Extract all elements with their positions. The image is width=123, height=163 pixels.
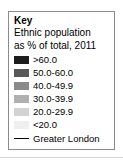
legend-class-row: 40.0-49.9 [14,79,114,92]
legend-class-label: <20.0 [33,120,57,130]
page-divider-rule [0,157,123,158]
legend-class-label: 30.0-39.9 [33,94,73,104]
legend-color-swatch [14,95,29,103]
legend-color-swatch [14,69,29,77]
boundary-line-icon [14,138,29,139]
legend-color-swatch [14,82,29,90]
legend-class-list: >60.0 50.0-60.0 40.0-49.9 30.0-39.9 20.0… [14,53,114,131]
legend-class-row: >60.0 [14,53,114,66]
legend-class-label: >60.0 [33,55,57,65]
legend-color-swatch [14,121,29,129]
legend-class-row: 50.0-60.0 [14,66,114,79]
legend-boundary-label: Greater London [33,134,100,144]
legend-color-swatch [14,56,29,64]
legend-boundary-row: Greater London [14,132,114,145]
legend-class-label: 20.0-29.9 [33,107,73,117]
legend-class-label: 50.0-60.0 [33,68,73,78]
legend-subtitle-line-1: Ethnic population [14,27,114,40]
map-legend-box: Key Ethnic population as % of total, 201… [8,11,115,150]
legend-subtitle-line-2: as % of total, 2011 [14,40,114,53]
legend-content: Key Ethnic population as % of total, 201… [9,12,114,145]
legend-class-label: 40.0-49.9 [33,81,73,91]
legend-color-swatch [14,108,29,116]
legend-class-row: 20.0-29.9 [14,105,114,118]
legend-title: Key [14,15,114,27]
legend-class-row: 30.0-39.9 [14,92,114,105]
legend-class-row: <20.0 [14,118,114,131]
